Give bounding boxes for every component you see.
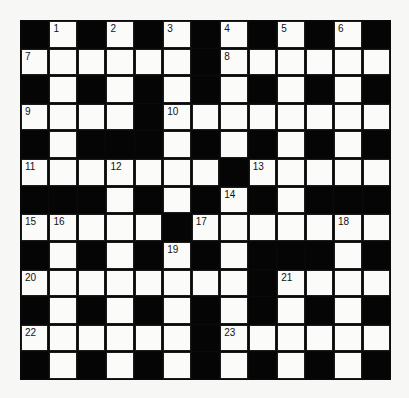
answer-cell[interactable] (192, 270, 219, 297)
answer-cell[interactable] (106, 49, 133, 76)
answer-cell[interactable] (363, 104, 390, 131)
answer-cell[interactable] (192, 159, 219, 186)
answer-cell[interactable] (220, 270, 247, 297)
answer-cell[interactable] (277, 352, 304, 379)
answer-cell[interactable] (249, 325, 276, 352)
answer-cell[interactable] (135, 214, 162, 241)
answer-cell[interactable]: 12 (106, 159, 133, 186)
answer-cell[interactable] (49, 270, 76, 297)
answer-cell[interactable] (163, 76, 190, 103)
answer-cell[interactable]: 18 (334, 214, 361, 241)
answer-cell[interactable] (163, 297, 190, 324)
answer-cell[interactable] (135, 325, 162, 352)
answer-cell[interactable] (334, 159, 361, 186)
answer-cell[interactable] (78, 49, 105, 76)
answer-cell[interactable] (334, 297, 361, 324)
answer-cell[interactable] (163, 187, 190, 214)
answer-cell[interactable] (306, 159, 333, 186)
answer-cell[interactable] (306, 325, 333, 352)
answer-cell[interactable] (277, 325, 304, 352)
answer-cell[interactable] (192, 104, 219, 131)
answer-cell[interactable] (249, 214, 276, 241)
answer-cell[interactable]: 5 (277, 21, 304, 48)
answer-cell[interactable] (277, 297, 304, 324)
answer-cell[interactable] (249, 104, 276, 131)
answer-cell[interactable]: 4 (220, 21, 247, 48)
answer-cell[interactable]: 21 (277, 270, 304, 297)
answer-cell[interactable] (106, 242, 133, 269)
answer-cell[interactable]: 16 (49, 214, 76, 241)
answer-cell[interactable]: 11 (21, 159, 48, 186)
answer-cell[interactable] (220, 297, 247, 324)
answer-cell[interactable] (135, 270, 162, 297)
answer-cell[interactable]: 13 (249, 159, 276, 186)
answer-cell[interactable] (249, 49, 276, 76)
answer-cell[interactable] (106, 297, 133, 324)
answer-cell[interactable] (363, 159, 390, 186)
answer-cell[interactable] (49, 131, 76, 158)
answer-cell[interactable]: 6 (334, 21, 361, 48)
answer-cell[interactable] (78, 270, 105, 297)
answer-cell[interactable] (78, 104, 105, 131)
answer-cell[interactable] (277, 104, 304, 131)
answer-cell[interactable] (334, 242, 361, 269)
answer-cell[interactable]: 9 (21, 104, 48, 131)
answer-cell[interactable] (163, 325, 190, 352)
answer-cell[interactable] (334, 76, 361, 103)
answer-cell[interactable] (220, 214, 247, 241)
answer-cell[interactable]: 17 (192, 214, 219, 241)
answer-cell[interactable] (306, 214, 333, 241)
answer-cell[interactable] (306, 270, 333, 297)
answer-cell[interactable] (49, 242, 76, 269)
answer-cell[interactable] (106, 352, 133, 379)
answer-cell[interactable]: 19 (163, 242, 190, 269)
answer-cell[interactable] (49, 159, 76, 186)
answer-cell[interactable] (334, 270, 361, 297)
answer-cell[interactable] (106, 214, 133, 241)
answer-cell[interactable] (363, 214, 390, 241)
answer-cell[interactable] (277, 187, 304, 214)
answer-cell[interactable] (163, 159, 190, 186)
answer-cell[interactable] (334, 352, 361, 379)
answer-cell[interactable] (277, 76, 304, 103)
answer-cell[interactable] (363, 49, 390, 76)
answer-cell[interactable]: 23 (220, 325, 247, 352)
answer-cell[interactable] (363, 270, 390, 297)
answer-cell[interactable] (220, 104, 247, 131)
answer-cell[interactable] (277, 214, 304, 241)
answer-cell[interactable] (163, 49, 190, 76)
answer-cell[interactable] (135, 159, 162, 186)
answer-cell[interactable] (334, 49, 361, 76)
answer-cell[interactable] (106, 270, 133, 297)
answer-cell[interactable] (334, 131, 361, 158)
answer-cell[interactable]: 8 (220, 49, 247, 76)
answer-cell[interactable]: 3 (163, 21, 190, 48)
answer-cell[interactable]: 7 (21, 49, 48, 76)
answer-cell[interactable] (334, 325, 361, 352)
answer-cell[interactable]: 1 (49, 21, 76, 48)
answer-cell[interactable] (49, 76, 76, 103)
answer-cell[interactable] (106, 76, 133, 103)
answer-cell[interactable] (163, 352, 190, 379)
answer-cell[interactable] (49, 297, 76, 324)
answer-cell[interactable] (78, 214, 105, 241)
answer-cell[interactable] (306, 104, 333, 131)
answer-cell[interactable] (163, 270, 190, 297)
answer-cell[interactable] (49, 104, 76, 131)
answer-cell[interactable] (106, 325, 133, 352)
answer-cell[interactable] (277, 49, 304, 76)
answer-cell[interactable]: 10 (163, 104, 190, 131)
answer-cell[interactable]: 22 (21, 325, 48, 352)
answer-cell[interactable] (277, 131, 304, 158)
answer-cell[interactable] (306, 49, 333, 76)
answer-cell[interactable] (163, 131, 190, 158)
answer-cell[interactable] (135, 49, 162, 76)
answer-cell[interactable] (106, 104, 133, 131)
answer-cell[interactable]: 2 (106, 21, 133, 48)
answer-cell[interactable] (220, 131, 247, 158)
answer-cell[interactable]: 14 (220, 187, 247, 214)
answer-cell[interactable] (49, 352, 76, 379)
answer-cell[interactable] (220, 76, 247, 103)
answer-cell[interactable]: 15 (21, 214, 48, 241)
answer-cell[interactable] (78, 159, 105, 186)
